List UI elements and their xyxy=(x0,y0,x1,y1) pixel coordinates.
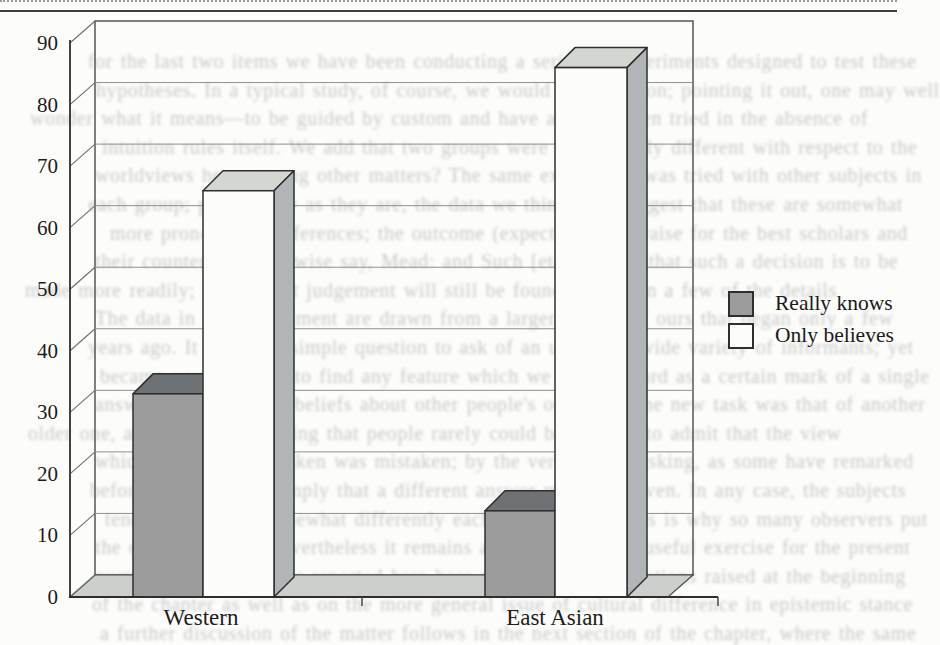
bar-front-only-believes-western xyxy=(203,191,274,597)
y-axis-tick-label: 10 xyxy=(37,523,58,547)
legend-item-really-knows: Really knows xyxy=(728,292,894,315)
only-believes-swatch xyxy=(728,323,754,349)
legend-item-only-believes: Only believes xyxy=(728,324,894,347)
y-axis-tick xyxy=(70,267,95,289)
y-axis-tick xyxy=(70,513,95,535)
y-axis-tick-label: 0 xyxy=(48,585,59,609)
y-axis-tick-label: 70 xyxy=(37,154,58,178)
y-axis-tick-label: 50 xyxy=(37,277,58,301)
y-axis-tick xyxy=(70,206,95,228)
bar-front-really-knows-western xyxy=(133,394,203,597)
y-axis-tick xyxy=(70,452,95,474)
category-label-western: Western xyxy=(164,605,239,631)
y-axis-tick-label: 90 xyxy=(37,31,58,55)
y-axis-tick xyxy=(70,329,95,351)
y-axis-tick-label: 80 xyxy=(37,93,58,117)
bar-side-only-believes-western xyxy=(274,171,294,597)
category-label-east-asian: East Asian xyxy=(506,605,604,631)
bar-side-only-believes-east-asian xyxy=(627,48,647,597)
y-axis-tick-label: 20 xyxy=(37,462,58,486)
legend-label-really-knows: Really knows xyxy=(775,293,893,315)
y-axis-tick xyxy=(70,83,95,105)
y-axis-tick-label: 30 xyxy=(37,400,58,424)
bar-front-really-knows-east-asian xyxy=(485,511,555,597)
y-axis-tick xyxy=(70,390,95,412)
y-axis-tick xyxy=(70,144,95,166)
legend-label-only-believes: Only believes xyxy=(775,325,894,347)
y-axis-tick xyxy=(70,21,95,43)
y-axis-tick-label: 40 xyxy=(37,339,58,363)
bar-front-only-believes-east-asian xyxy=(555,68,627,597)
y-axis-tick-label: 60 xyxy=(37,216,58,240)
really-knows-swatch xyxy=(728,291,754,317)
chart-legend: Really knows Only believes xyxy=(728,292,894,356)
